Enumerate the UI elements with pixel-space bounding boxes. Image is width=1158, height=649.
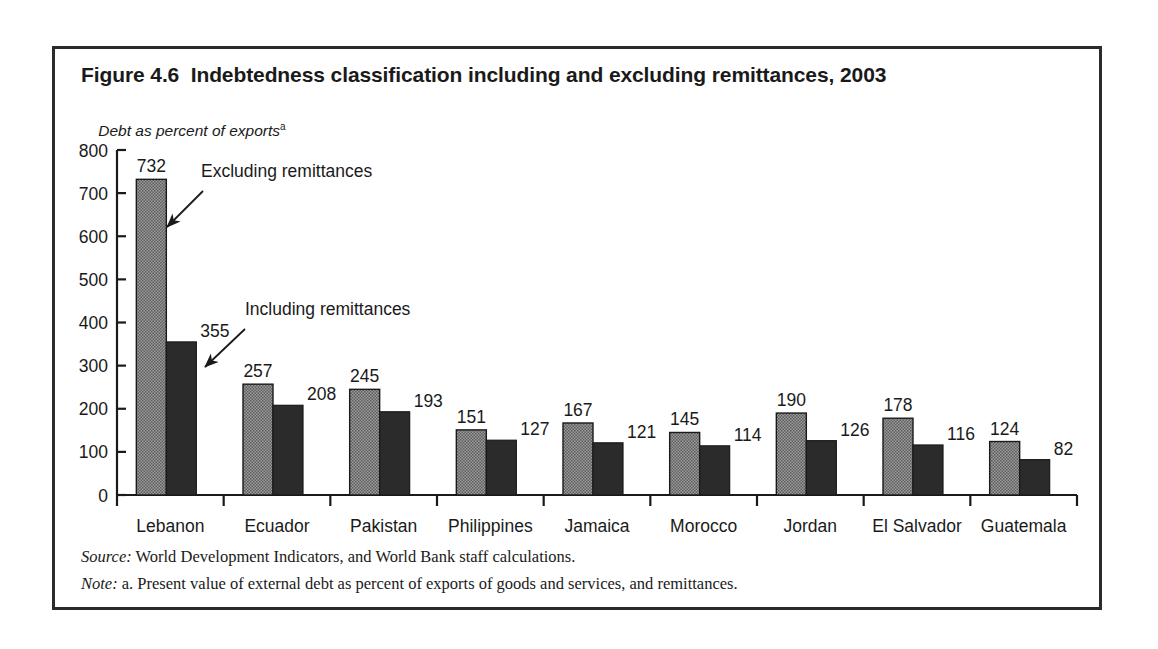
y-axis-tick-label: 600 <box>79 227 108 247</box>
bar-value-label: 124 <box>990 419 1019 439</box>
bar-value-label: 732 <box>137 156 166 176</box>
bar-excluding-remittances <box>670 432 700 495</box>
source-text: World Development Indicators, and World … <box>132 547 576 566</box>
x-axis-category-label: Jamaica <box>564 516 629 536</box>
bar-excluding-remittances <box>243 384 273 495</box>
bar-value-label: 151 <box>457 407 486 427</box>
bar-including-remittances <box>593 443 623 495</box>
figure-notes: Source: World Development Indicators, an… <box>81 543 1071 597</box>
x-axis-category-label: El Salvador <box>872 516 962 536</box>
bar-excluding-remittances <box>136 179 166 495</box>
bar-including-remittances <box>273 405 303 495</box>
bar-including-remittances <box>486 440 516 495</box>
source-label: Source: <box>81 547 132 566</box>
figure-panel: Figure 4.6 Indebtedness classification i… <box>52 46 1102 610</box>
note-label: Note: <box>81 574 118 593</box>
y-axis-tick-label: 200 <box>79 399 108 419</box>
bar-including-remittances <box>700 446 730 495</box>
y-axis-tick-label: 400 <box>79 313 108 333</box>
bar-including-remittances <box>166 342 196 495</box>
bar-including-remittances <box>913 445 943 495</box>
bar-value-label: 178 <box>883 395 912 415</box>
y-axis-tick-label: 700 <box>79 184 108 204</box>
note-text: a. Present value of external debt as per… <box>118 574 738 593</box>
note-line: Note: a. Present value of external debt … <box>81 570 1071 597</box>
x-axis-category-label: Ecuador <box>244 516 309 536</box>
bar-value-label: 257 <box>243 361 272 381</box>
y-axis-tick-label: 800 <box>79 141 108 161</box>
bar-value-label: 190 <box>777 390 806 410</box>
bar-excluding-remittances <box>456 430 486 495</box>
bar-excluding-remittances <box>990 442 1020 495</box>
bar-including-remittances <box>1020 460 1050 495</box>
x-axis-category-label: Lebanon <box>136 516 204 536</box>
x-axis-category-label: Jordan <box>784 516 838 536</box>
bar-value-label: 114 <box>734 425 762 445</box>
annotation-arrow-excluding-remittances <box>167 191 203 227</box>
bar-value-label: 82 <box>1054 439 1073 459</box>
x-axis-category-label: Morocco <box>670 516 737 536</box>
x-axis-category-label: Philippines <box>448 516 533 536</box>
bar-value-label: 208 <box>307 384 336 404</box>
x-axis-category-label: Pakistan <box>350 516 417 536</box>
source-line: Source: World Development Indicators, an… <box>81 543 1071 570</box>
bar-excluding-remittances <box>776 413 806 495</box>
bar-value-label: 116 <box>947 424 975 444</box>
bar-value-label: 126 <box>840 420 869 440</box>
annotation-excluding-remittances: Excluding remittances <box>201 161 372 181</box>
bar-excluding-remittances <box>350 389 380 495</box>
bar-value-label: 127 <box>520 419 549 439</box>
bar-value-label: 355 <box>200 321 229 341</box>
bar-excluding-remittances <box>883 418 913 495</box>
bar-value-label: 245 <box>350 366 379 386</box>
bar-value-label: 193 <box>414 391 443 411</box>
bar-value-label: 121 <box>627 422 656 442</box>
bar-including-remittances <box>806 441 836 495</box>
y-axis-tick-label: 500 <box>79 270 108 290</box>
bar-chart-plot: 0100200300400500600700800732355Lebanon25… <box>55 49 1105 613</box>
annotation-including-remittances: Including remittances <box>245 299 411 319</box>
bar-value-label: 167 <box>563 400 592 420</box>
x-axis-category-label: Guatemala <box>981 516 1067 536</box>
bar-including-remittances <box>380 412 410 495</box>
bar-excluding-remittances <box>563 423 593 495</box>
y-axis-tick-label: 0 <box>98 486 108 506</box>
y-axis-tick-label: 100 <box>79 442 108 462</box>
bar-value-label: 145 <box>670 409 699 429</box>
y-axis-tick-label: 300 <box>79 356 108 376</box>
